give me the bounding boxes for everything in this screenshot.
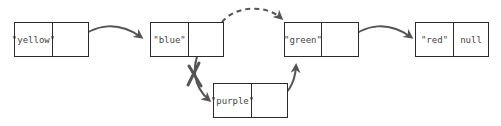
node-purple: "purple" [213, 83, 288, 118]
arrow-blue-to-green-dashed [222, 9, 281, 22]
node-yellow: "yellow" [14, 22, 89, 57]
node-value: "red" [416, 23, 454, 56]
node-next-pointer [53, 23, 88, 56]
node-green: "green" [284, 22, 359, 57]
node-value: "yellow" [15, 23, 53, 56]
node-value: "blue" [151, 23, 189, 56]
node-next-pointer [189, 23, 223, 56]
node-value: "purple" [214, 84, 252, 117]
node-value: "green" [285, 23, 322, 56]
node-red: "red" null [415, 22, 489, 57]
node-blue: "blue" [150, 22, 224, 57]
node-next-pointer [322, 23, 358, 56]
node-next-pointer [252, 84, 287, 117]
node-next-pointer: null [454, 23, 488, 56]
